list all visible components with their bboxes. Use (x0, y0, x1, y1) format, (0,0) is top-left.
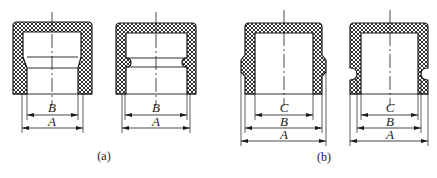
part-a1-socket-taper: B A (13, 12, 92, 133)
part-a2-socket-groove: B A (116, 12, 196, 133)
panel-b: C B A C B A (b) (241, 10, 428, 164)
dimension-label-a: A (385, 127, 394, 142)
dimension-label-a: A (151, 114, 160, 129)
caption-b: (b) (317, 150, 331, 164)
dimension-label-b: B (152, 100, 160, 115)
dimension-label-b: B (48, 100, 56, 115)
engineering-diagram: B A B A (a) (0, 0, 437, 178)
part-b2-cap-notch: C B A (350, 10, 428, 146)
part-b2-wall (350, 23, 428, 94)
part-a1-wall (13, 22, 92, 94)
dimension-label-a: A (279, 127, 288, 142)
panel-a: B A B A (a) (13, 12, 196, 163)
dimension-label-a: A (47, 114, 56, 129)
caption-a: (a) (97, 149, 110, 163)
part-b1-cap-bulge: C B A (241, 10, 326, 146)
part-b1-wall (241, 23, 326, 94)
dimension-label-c: C (386, 100, 395, 115)
dimension-label-c: C (280, 100, 289, 115)
